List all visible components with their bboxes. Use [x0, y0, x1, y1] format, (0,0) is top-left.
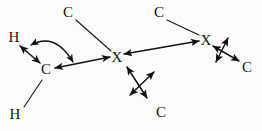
molecular-diagram: H H C C X C X C C — [0, 0, 262, 131]
atom-label-c-left: C — [38, 62, 54, 77]
bond-c-top-left-x-center — [76, 20, 111, 51]
curved-double-arrow-bend — [31, 41, 73, 62]
double-arrow-x-x — [124, 41, 199, 54]
atom-label-x-center: X — [109, 50, 125, 65]
atom-label-c-top-right: C — [151, 5, 167, 20]
atom-label-h-top: H — [6, 30, 22, 45]
atom-label-h-bottom: H — [7, 107, 23, 122]
atom-label-c-top-left: C — [60, 5, 76, 20]
atom-label-c-bottom: C — [153, 105, 169, 120]
double-arrow-c-x — [55, 57, 110, 68]
bond-c-top-right-x-right — [167, 20, 199, 35]
atom-label-c-right: C — [239, 60, 255, 75]
bond-h-bottom-c-left — [24, 80, 42, 107]
atom-label-x-right: X — [198, 33, 214, 48]
double-arrow-h-c — [20, 46, 40, 63]
double-arrow-right-vertical — [216, 38, 228, 62]
